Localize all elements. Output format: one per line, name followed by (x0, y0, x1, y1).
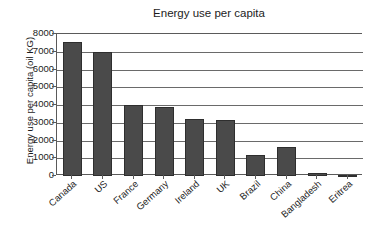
plot-area (56, 33, 362, 175)
x-tick-mark (255, 175, 256, 179)
x-tick-mark (224, 175, 225, 179)
bar (124, 105, 143, 176)
x-tick-mark (194, 175, 195, 179)
x-tick-mark (316, 175, 317, 179)
y-tick-mark (52, 86, 56, 87)
x-tick-label: Canada (0, 178, 79, 236)
bar (93, 52, 112, 176)
bar (277, 147, 296, 176)
y-tick-mark (52, 122, 56, 123)
y-tick-label: 2000 (14, 135, 54, 145)
bar (185, 119, 204, 176)
x-tick-mark (286, 175, 287, 179)
x-tick-mark (163, 175, 164, 179)
bar (216, 120, 235, 176)
bar (155, 107, 174, 176)
y-tick-mark (52, 157, 56, 158)
y-tick-label: 3000 (14, 117, 54, 127)
y-tick-label: 7000 (14, 46, 54, 56)
y-tick-mark (52, 51, 56, 52)
x-tick-mark (102, 175, 103, 179)
y-tick-label: 8000 (14, 28, 54, 38)
y-tick-label: 1000 (14, 152, 54, 162)
x-tick-mark (71, 175, 72, 179)
energy-use-bar-chart: Energy use per capita Energy use per cap… (0, 0, 378, 236)
bar (246, 155, 265, 176)
bar (308, 173, 327, 176)
x-tick-mark (347, 175, 348, 179)
y-tick-label: 4000 (14, 99, 54, 109)
y-tick-mark (52, 175, 56, 176)
y-tick-label: 0 (14, 170, 54, 180)
y-tick-label: 6000 (14, 64, 54, 74)
y-tick-mark (52, 104, 56, 105)
y-tick-mark (52, 140, 56, 141)
y-tick-mark (52, 33, 56, 34)
y-tick-mark (52, 69, 56, 70)
bar (63, 42, 82, 176)
y-tick-label: 5000 (14, 81, 54, 91)
chart-title: Energy use per capita (56, 6, 362, 20)
x-tick-mark (133, 175, 134, 179)
